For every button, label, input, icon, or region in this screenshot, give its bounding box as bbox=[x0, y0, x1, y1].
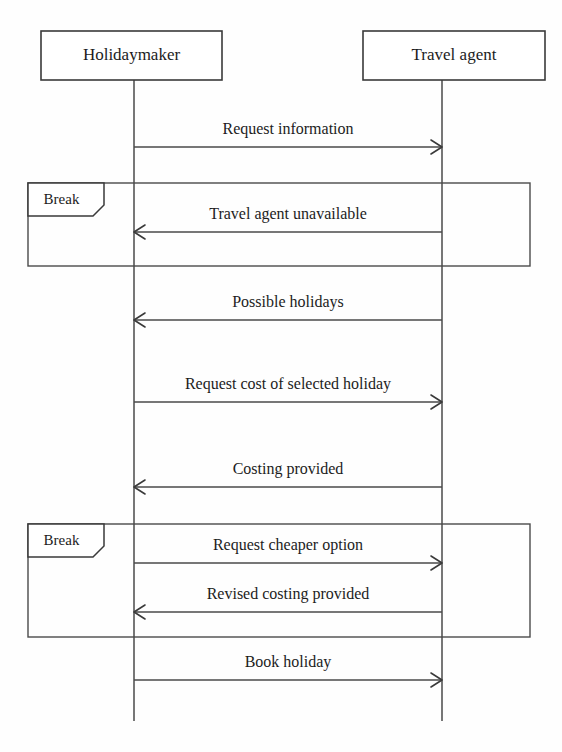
message-msg-request-information: Request information bbox=[134, 120, 442, 154]
message-label-msg-book-holiday: Book holiday bbox=[245, 653, 332, 671]
message-label-msg-revised-costing-provided: Revised costing provided bbox=[207, 585, 370, 603]
lifeline-label-holidaymaker: Holidaymaker bbox=[83, 45, 181, 64]
message-msg-revised-costing-provided: Revised costing provided bbox=[134, 585, 442, 619]
message-msg-travel-agent-unavailable: Travel agent unavailable bbox=[134, 205, 442, 239]
lifeline-label-travel-agent: Travel agent bbox=[412, 45, 497, 64]
message-label-msg-possible-holidays: Possible holidays bbox=[232, 293, 344, 311]
message-msg-book-holiday: Book holiday bbox=[134, 653, 442, 687]
message-label-msg-request-cheaper-option: Request cheaper option bbox=[213, 536, 363, 554]
message-label-msg-request-cost-of-selected-holiday: Request cost of selected holiday bbox=[185, 375, 391, 393]
fragment-operator-label-break-2: Break bbox=[44, 532, 80, 548]
sequence-diagram-svg: HolidaymakerTravel agent BreakBreak Requ… bbox=[0, 0, 562, 752]
fragment-break-1: Break bbox=[28, 183, 530, 266]
fragments-layer: BreakBreak bbox=[28, 183, 530, 637]
message-label-msg-request-information: Request information bbox=[222, 120, 353, 138]
fragment-operator-label-break-1: Break bbox=[44, 191, 80, 207]
messages-layer: Request informationTravel agent unavaila… bbox=[134, 120, 442, 687]
message-label-msg-costing-provided: Costing provided bbox=[233, 460, 344, 478]
message-msg-request-cheaper-option: Request cheaper option bbox=[134, 536, 442, 570]
message-msg-costing-provided: Costing provided bbox=[134, 460, 442, 494]
sequence-diagram-canvas: HolidaymakerTravel agent BreakBreak Requ… bbox=[0, 0, 562, 752]
message-msg-possible-holidays: Possible holidays bbox=[134, 293, 442, 327]
message-label-msg-travel-agent-unavailable: Travel agent unavailable bbox=[209, 205, 367, 223]
message-msg-request-cost-of-selected-holiday: Request cost of selected holiday bbox=[134, 375, 442, 409]
